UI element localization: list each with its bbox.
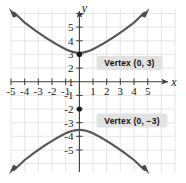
y-tick-label: 5 bbox=[68, 21, 74, 33]
vertex-point-upper bbox=[77, 52, 82, 57]
x-tick-label: 4 bbox=[131, 85, 137, 97]
x-tick-label: 2 bbox=[104, 85, 110, 97]
x-tick-label: -5 bbox=[6, 85, 16, 97]
x-tick-label: -3 bbox=[34, 85, 44, 97]
x-tick-label: -2 bbox=[47, 85, 56, 97]
vertex-upper-label-text: Vertex (0, 3) bbox=[104, 58, 154, 68]
x-tick-label: 1 bbox=[90, 85, 96, 97]
y-tick-label: 2 bbox=[68, 62, 74, 74]
y-tick-label: 1 bbox=[68, 76, 74, 88]
y-tick-label: -5 bbox=[64, 144, 74, 156]
y-axis-label: y bbox=[81, 1, 88, 15]
x-tick-label: 3 bbox=[118, 85, 124, 97]
vertex-lower-annotation: Vertex (0, −3) bbox=[97, 114, 168, 128]
hyperbola-figure: -5 -4 -3 -2 -1 1 2 3 4 5 5 4 3 2 1 -1 -2… bbox=[0, 0, 186, 183]
x-axis-label: x bbox=[170, 75, 177, 89]
vertex-lower-label-text: Vertex (0, −3) bbox=[104, 116, 160, 126]
x-tick-label: -4 bbox=[20, 85, 30, 97]
x-tick-label: 5 bbox=[145, 85, 151, 97]
vertex-upper-annotation: Vertex (0, 3) bbox=[97, 56, 163, 70]
y-tick-label: -2 bbox=[64, 103, 73, 115]
graph-canvas: -5 -4 -3 -2 -1 1 2 3 4 5 5 4 3 2 1 -1 -2… bbox=[0, 0, 186, 183]
y-tick-label: -1 bbox=[64, 89, 73, 101]
y-tick-label: -3 bbox=[64, 117, 74, 129]
y-tick-label: 4 bbox=[68, 35, 74, 47]
vertex-point-lower bbox=[77, 106, 82, 111]
